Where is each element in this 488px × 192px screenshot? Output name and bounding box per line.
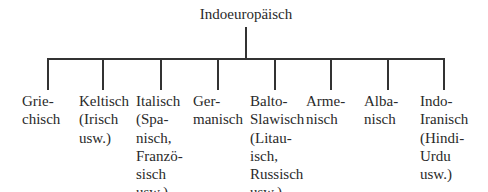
branch-horizontal-bar <box>47 58 445 60</box>
branch-stem-balto-slawisch <box>274 58 276 90</box>
leaf-line: nisch <box>364 110 398 128</box>
branch-stem-germanisch <box>217 58 219 90</box>
leaf-germanisch: Ger- manisch <box>193 92 243 129</box>
branch-stem-albanisch <box>387 58 389 90</box>
leaf-line: isch, <box>250 147 304 165</box>
leaf-line: Franzö- <box>136 147 183 165</box>
leaf-griechisch: Grie- chisch <box>22 92 60 129</box>
leaf-line: (Hindi- <box>420 129 468 147</box>
branch-stem-keltisch <box>102 58 104 90</box>
leaf-line: Urdu <box>420 147 468 165</box>
leaf-line: Ger- <box>193 92 243 110</box>
leaf-line: sisch <box>136 165 183 183</box>
leaf-line: usw.) <box>420 165 468 183</box>
leaf-albanisch: Alba- nisch <box>364 92 398 129</box>
leaf-line: (Irisch <box>79 110 129 128</box>
leaf-keltisch: Keltisch (Irisch usw.) <box>79 92 129 147</box>
leaf-line: Arme- <box>306 92 345 110</box>
leaf-line: Iranisch <box>420 110 468 128</box>
leaf-line: Russisch <box>250 165 304 183</box>
branch-stem-indo-iranisch <box>443 58 445 90</box>
leaf-line: Grie- <box>22 92 60 110</box>
leaf-line: chisch <box>22 110 60 128</box>
root-connector-line <box>245 27 247 58</box>
leaf-line: Balto- <box>250 92 304 110</box>
leaf-indo-iranisch: Indo- Iranisch (Hindi- Urdu usw.) <box>420 92 468 183</box>
leaf-italisch: Italisch (Spa- nisch, Franzö- sisch usw.… <box>136 92 183 192</box>
root-node-label: Indoeuropäisch <box>200 5 292 23</box>
branch-stem-italisch <box>160 58 162 90</box>
leaf-line: Indo- <box>420 92 468 110</box>
leaf-line: nisch <box>306 110 345 128</box>
leaf-line: Alba- <box>364 92 398 110</box>
leaf-line: Slawisch <box>250 110 304 128</box>
language-family-tree: Indoeuropäisch Grie- chisch Keltisch (Ir… <box>0 0 488 192</box>
leaf-line: manisch <box>193 110 243 128</box>
leaf-line: (Spa- <box>136 110 183 128</box>
leaf-line: (Litau- <box>250 129 304 147</box>
leaf-line: Italisch <box>136 92 183 110</box>
branch-stem-griechisch <box>47 58 49 90</box>
leaf-line: Keltisch <box>79 92 129 110</box>
leaf-line: usw.) <box>136 183 183 192</box>
leaf-line: usw.) <box>250 183 304 192</box>
leaf-line: usw.) <box>79 129 129 147</box>
leaf-balto-slawisch: Balto- Slawisch (Litau- isch, Russisch u… <box>250 92 304 192</box>
branch-stem-armenisch <box>330 58 332 90</box>
leaf-armenisch: Arme- nisch <box>306 92 345 129</box>
leaf-line: nisch, <box>136 129 183 147</box>
